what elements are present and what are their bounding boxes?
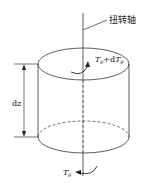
dimension-arrow-down-icon xyxy=(22,131,26,137)
top-torque-sub2: θ xyxy=(121,59,124,65)
top-torque-arrowhead-icon xyxy=(85,61,90,67)
top-torque-arrow-icon xyxy=(71,67,87,74)
top-torque-label: Tθ+dTθ xyxy=(95,55,124,65)
axis-label: 扭转轴 xyxy=(109,14,136,25)
bottom-torque-arrow-icon xyxy=(80,166,97,174)
bottom-torque-sub: θ xyxy=(68,172,71,178)
bottom-torque-arrowhead-icon xyxy=(75,170,81,175)
top-torque-plus-d: +d xyxy=(103,55,115,64)
axis-leader-line xyxy=(83,20,107,30)
top-face-ellipse xyxy=(38,48,129,80)
bottom-torque-label: Tθ xyxy=(63,168,71,178)
dimension-arrow-up-icon xyxy=(22,64,26,70)
dimension-label: dz xyxy=(12,99,21,108)
cylinder-torsion-diagram: 扭转轴 dz Tθ+dTθ Tθ xyxy=(0,0,151,191)
